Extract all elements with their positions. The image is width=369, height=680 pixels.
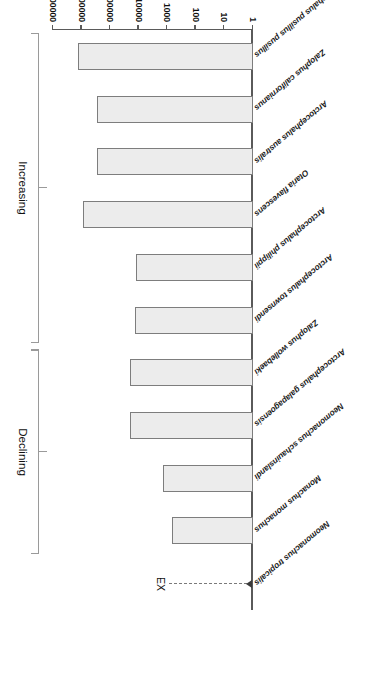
- extinct-arrow-head: [246, 580, 252, 588]
- value-tick-label: 10000000: [48, 0, 58, 22]
- bar-row: [53, 346, 253, 399]
- value-tick-label: 1000: [162, 3, 172, 22]
- category-label: Monachus monachus: [253, 473, 324, 535]
- bar: [130, 359, 253, 386]
- extinct-arrow-line: [169, 583, 247, 584]
- bar: [83, 201, 253, 228]
- bar-row: [53, 241, 253, 294]
- bar: [97, 148, 253, 175]
- bracket-cap-bottom: [31, 349, 39, 350]
- bar: [135, 307, 253, 334]
- bracket-cap-top: [31, 342, 39, 343]
- bar: [163, 465, 253, 492]
- value-tick-label: 10: [219, 12, 229, 22]
- bracket-spine: [38, 349, 39, 554]
- bar-row: [53, 294, 253, 347]
- chart-figure: Neomonachus tropicalisMonachus monachusN…: [0, 0, 369, 680]
- bar-row: [53, 452, 253, 505]
- bracket-nub: [38, 451, 47, 452]
- group-bracket-label: Increasing: [17, 161, 30, 215]
- group-bracket-label: Declining: [17, 428, 30, 476]
- category-label: Arctocephalus australis: [253, 99, 330, 166]
- value-tick-label: 1000000: [77, 0, 87, 22]
- category-label: Zalophus wollebaeki: [253, 318, 321, 377]
- bracket-nub: [38, 187, 47, 188]
- extinct-label: EX: [155, 577, 167, 591]
- bar-row: [53, 135, 253, 188]
- value-tick-label: 10000: [134, 0, 144, 22]
- bar: [130, 412, 253, 439]
- bar: [136, 254, 253, 281]
- category-label: Otaria flavescens: [253, 167, 311, 218]
- bar-row: [53, 30, 253, 83]
- bracket-cap-top: [31, 553, 39, 554]
- bar-row: [53, 188, 253, 241]
- group-bracket: [29, 349, 47, 554]
- bar: [78, 43, 253, 70]
- plot-area: [53, 30, 253, 610]
- value-tick-label: 100: [191, 8, 201, 22]
- bar-row: [53, 399, 253, 452]
- value-tick-label: 100000: [105, 0, 115, 22]
- bar-row: [53, 83, 253, 136]
- value-tick-label: 1: [248, 17, 258, 22]
- bar-row: [53, 505, 253, 558]
- group-bracket: [29, 33, 47, 343]
- bar: [97, 96, 253, 123]
- bracket-cap-bottom: [31, 33, 39, 34]
- category-label: Arctocephalus pusillus pusillus: [253, 0, 354, 60]
- bar: [172, 517, 253, 544]
- chart-canvas: Neomonachus tropicalisMonachus monachusN…: [0, 0, 369, 680]
